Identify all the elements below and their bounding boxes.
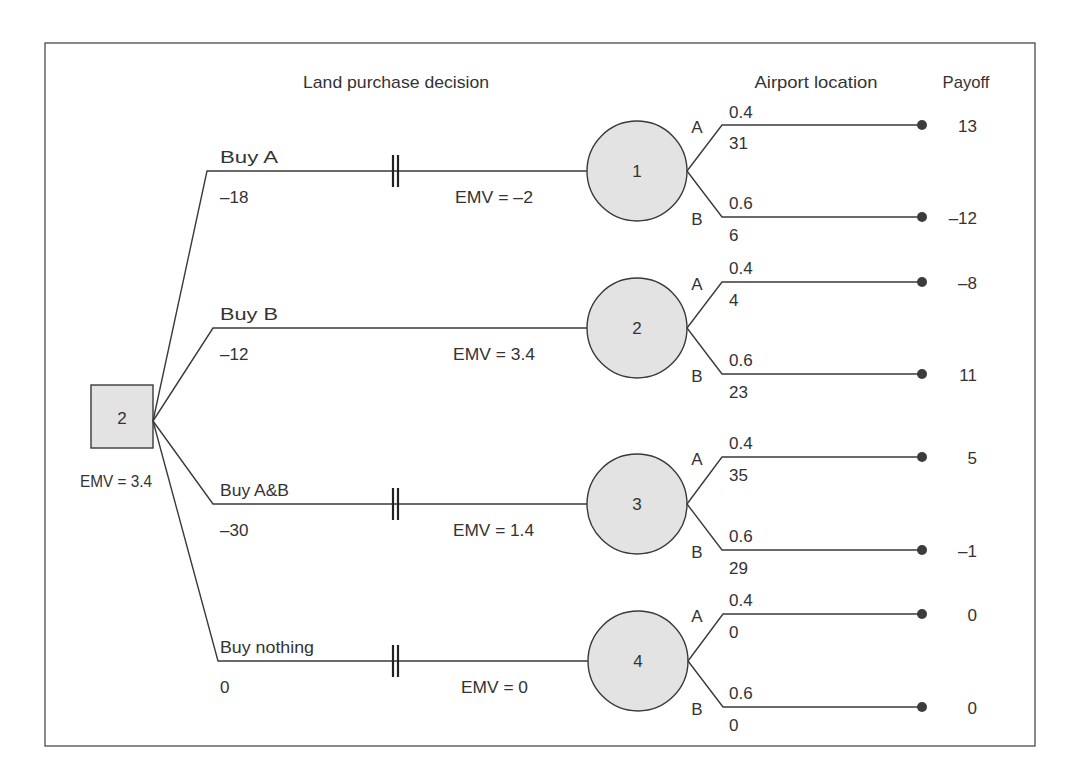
outcome-value-a: 4 bbox=[729, 291, 738, 310]
outcome-prob-a: 0.4 bbox=[729, 259, 753, 278]
outcome-value-a: 35 bbox=[729, 466, 748, 485]
terminal-dot-icon bbox=[917, 277, 927, 287]
payoff-b: 0 bbox=[968, 699, 977, 718]
root-node-label: 2 bbox=[117, 409, 126, 428]
branch-cost: 0 bbox=[220, 678, 229, 697]
outcome-line-b bbox=[687, 504, 922, 550]
outcome-label-a: A bbox=[691, 275, 703, 294]
outcome-label-a: A bbox=[691, 118, 703, 137]
outcome-line-b bbox=[687, 171, 922, 217]
outcome-prob-a: 0.4 bbox=[729, 591, 753, 610]
chance-node-label: 2 bbox=[632, 319, 641, 338]
terminal-dot-icon bbox=[917, 369, 927, 379]
outcome-value-a: 0 bbox=[729, 623, 738, 642]
terminal-dot-icon bbox=[917, 545, 927, 555]
chance-node-label: 4 bbox=[633, 652, 642, 671]
payoff-b: –12 bbox=[949, 209, 977, 228]
header-payoff: Payoff bbox=[943, 73, 990, 92]
chance-node-label: 1 bbox=[632, 162, 641, 181]
outcome-label-b: B bbox=[691, 700, 702, 719]
outcome-prob-b: 0.6 bbox=[729, 351, 753, 370]
outcome-prob-a: 0.4 bbox=[729, 434, 753, 453]
payoff-b: 11 bbox=[959, 366, 977, 385]
header-airport-location: Airport location bbox=[755, 73, 878, 92]
outcome-line-a bbox=[687, 282, 922, 328]
diagram-frame bbox=[45, 43, 1035, 746]
branch-name: Buy A&B bbox=[220, 481, 289, 500]
outcome-line-b bbox=[687, 328, 922, 374]
root-decision-node: 2 bbox=[91, 385, 153, 448]
branch-cost: –30 bbox=[220, 521, 248, 540]
payoff-b: –1 bbox=[958, 542, 977, 561]
chance-node-label: 3 bbox=[632, 495, 641, 514]
branch-line bbox=[153, 328, 588, 421]
outcome-label-a: A bbox=[691, 607, 703, 626]
header-land-purchase-decision: Land purchase decision bbox=[303, 73, 489, 92]
terminal-dot-icon bbox=[917, 212, 927, 222]
branch-line bbox=[153, 171, 588, 421]
outcome-prob-a: 0.4 bbox=[729, 103, 753, 122]
outcome-value-b: 29 bbox=[729, 559, 748, 578]
branch-name: Buy B bbox=[220, 305, 278, 324]
outcome-value-b: 23 bbox=[729, 383, 748, 402]
terminal-dot-icon bbox=[917, 609, 927, 619]
outcome-line-b bbox=[688, 661, 922, 707]
payoff-a: 5 bbox=[968, 449, 977, 468]
branch-name: Buy nothing bbox=[220, 638, 314, 657]
payoff-a: –8 bbox=[958, 274, 977, 293]
terminal-dot-icon bbox=[917, 702, 927, 712]
payoff-a: 13 bbox=[958, 117, 977, 136]
terminal-dot-icon bbox=[917, 120, 927, 130]
outcome-prob-b: 0.6 bbox=[729, 684, 753, 703]
branch-emv: EMV = –2 bbox=[455, 188, 533, 207]
branch-buy-b: Buy B –12 EMV = 3.4 2 A 0.4 4 –8 B 0.6 2… bbox=[153, 259, 977, 421]
branch-cost: –12 bbox=[220, 345, 248, 364]
branch-cost: –18 bbox=[220, 188, 248, 207]
outcome-label-b: B bbox=[691, 543, 702, 562]
outcome-line-a bbox=[688, 614, 922, 661]
outcome-line-a bbox=[687, 457, 922, 504]
outcome-line-a bbox=[687, 125, 922, 171]
root-emv: EMV = 3.4 bbox=[80, 472, 152, 491]
decision-tree-diagram: Land purchase decision Airport location … bbox=[0, 0, 1080, 772]
outcome-prob-b: 0.6 bbox=[729, 527, 753, 546]
branch-line bbox=[153, 421, 588, 504]
branch-buy-nothing: Buy nothing 0 EMV = 0 4 A 0.4 0 0 B 0.6 … bbox=[153, 421, 977, 735]
branch-emv: EMV = 1.4 bbox=[453, 521, 534, 540]
branch-line bbox=[153, 421, 588, 661]
outcome-prob-b: 0.6 bbox=[729, 194, 753, 213]
outcome-label-a: A bbox=[691, 450, 703, 469]
outcome-value-b: 6 bbox=[729, 226, 738, 245]
terminal-dot-icon bbox=[917, 452, 927, 462]
branch-buy-a-and-b: Buy A&B –30 EMV = 1.4 3 A 0.4 35 5 B 0.6… bbox=[153, 421, 977, 578]
branch-emv: EMV = 0 bbox=[461, 678, 528, 697]
outcome-value-a: 31 bbox=[729, 134, 748, 153]
payoff-a: 0 bbox=[968, 606, 977, 625]
outcome-value-b: 0 bbox=[729, 716, 738, 735]
outcome-label-b: B bbox=[691, 367, 702, 386]
branch-name: Buy A bbox=[220, 148, 279, 167]
branch-emv: EMV = 3.4 bbox=[453, 345, 535, 364]
outcome-label-b: B bbox=[691, 210, 702, 229]
